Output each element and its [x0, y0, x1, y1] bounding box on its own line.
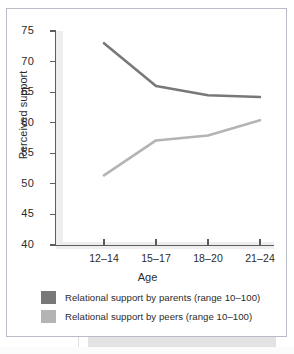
line-parents — [104, 43, 260, 97]
y-axis-label: Perceived support — [17, 55, 29, 175]
legend-swatch-parents — [41, 291, 56, 304]
legend-item-peers: Relational support by peers (range 10–10… — [41, 308, 281, 325]
x-axis-label: Age — [7, 271, 288, 283]
plot-area: 4045505560657075 12–1415–1718–2021–24 Pe… — [7, 9, 288, 338]
figure-container: 4045505560657075 12–1415–1718–2021–24 Pe… — [0, 0, 294, 354]
legend-swatch-peers — [41, 310, 56, 323]
chart-legend: Relational support by parents (range 10–… — [41, 289, 281, 327]
legend-label-peers: Relational support by peers (range 10–10… — [65, 311, 252, 322]
line-peers — [104, 120, 260, 175]
legend-item-parents: Relational support by parents (range 10–… — [41, 289, 281, 306]
chart-frame: 4045505560657075 12–1415–1718–2021–24 Pe… — [6, 8, 287, 337]
scan-shadow-band-lower — [0, 347, 294, 354]
legend-label-parents: Relational support by parents (range 10–… — [65, 292, 260, 303]
